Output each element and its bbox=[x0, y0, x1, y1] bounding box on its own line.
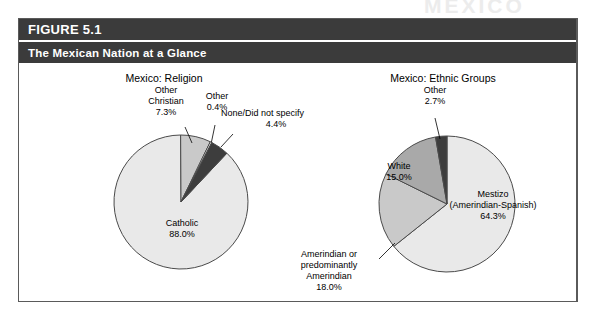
pie-label-amerindian: Amerindian or predominantly Amerindian 1… bbox=[277, 249, 381, 293]
pie-label-amerindian-line1: Amerindian or bbox=[277, 249, 381, 260]
pie-label-catholic: Catholic 88.0% bbox=[127, 218, 237, 240]
pie-label-mestizo-line1: Mestizo bbox=[437, 189, 549, 200]
pie-label-catholic-value: 88.0% bbox=[127, 229, 237, 240]
pie-label-other-ethnic-name: Other bbox=[405, 85, 465, 96]
pie-label-amerindian-line3: Amerindian bbox=[277, 271, 381, 282]
pie-chart-religion: Mexico: Religion Catholic 88.0% Other Ch… bbox=[19, 63, 309, 301]
pie-label-amerindian-value: 18.0% bbox=[277, 282, 381, 293]
pie-label-white-value: 15.0% bbox=[371, 172, 427, 183]
leader-line-other-ethnic bbox=[435, 118, 440, 139]
charts-area: Mexico: Religion Catholic 88.0% Other Ch… bbox=[19, 63, 576, 301]
figure-title-bar: The Mexican Nation at a Glance bbox=[19, 42, 576, 63]
pie-chart-ethnic: Mexico: Ethnic Groups Other 2.7% White 1… bbox=[309, 63, 577, 301]
pie-label-amerindian-line2: predominantly bbox=[277, 260, 381, 271]
leader-line-amerindian bbox=[379, 243, 395, 259]
pie-label-catholic-name: Catholic bbox=[127, 218, 237, 229]
figure-number-bar: FIGURE 5.1 bbox=[19, 19, 576, 40]
figure-box: FIGURE 5.1 The Mexican Nation at a Glanc… bbox=[18, 18, 578, 302]
pie-label-white: White 15.0% bbox=[371, 161, 427, 183]
figure-title-label: The Mexican Nation at a Glance bbox=[28, 47, 207, 59]
pie-label-mestizo-line2: (Amerindian-Spanish) bbox=[437, 200, 549, 211]
pie-label-other-ethnic-value: 2.7% bbox=[405, 96, 465, 107]
leader-line-none bbox=[221, 134, 233, 147]
pie-label-other-ethnic: Other 2.7% bbox=[405, 85, 465, 107]
slice-group-religion bbox=[114, 135, 248, 269]
pie-label-other-name: Other bbox=[189, 91, 245, 102]
leader-line-other bbox=[211, 125, 215, 142]
pie-label-mestizo-value: 64.3% bbox=[437, 211, 549, 222]
pie-label-white-name: White bbox=[371, 161, 427, 172]
page-watermark: MEXICO bbox=[424, 0, 584, 16]
figure-number-label: FIGURE 5.1 bbox=[28, 22, 102, 37]
pie-label-mestizo: Mestizo (Amerindian-Spanish) 64.3% bbox=[437, 189, 549, 222]
